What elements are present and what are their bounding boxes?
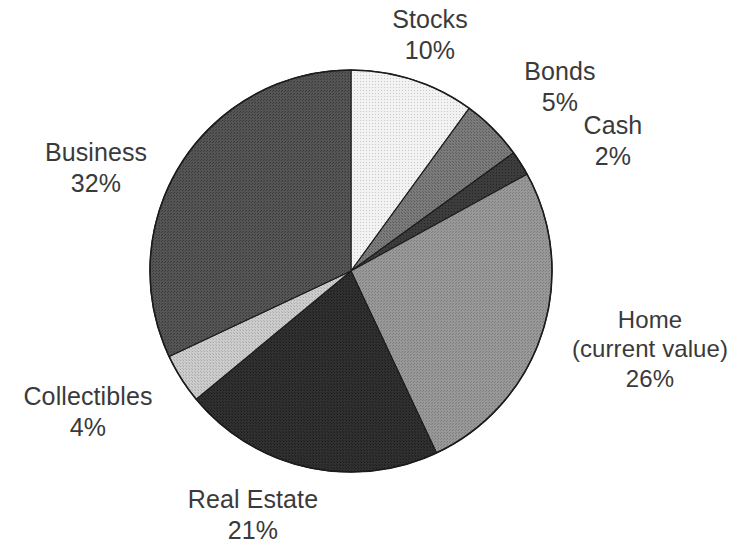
slice-label-real-estate-name: Real Estate (148, 484, 358, 515)
slice-label-home-subtitle: (current value) (566, 334, 734, 363)
slice-label-stocks-name: Stocks (330, 4, 530, 35)
pie-slice-group (150, 70, 552, 472)
slice-label-home-value: 26% (566, 364, 734, 393)
slice-label-cash: Cash 2% (528, 110, 698, 171)
slice-label-business-name: Business (12, 137, 180, 168)
slice-label-cash-name: Cash (528, 110, 698, 141)
slice-label-home: Home (current value) 26% (566, 305, 734, 393)
slice-label-collectibles-name: Collectibles (0, 381, 178, 412)
slice-label-real-estate-value: 21% (148, 515, 358, 545)
slice-label-bonds-name: Bonds (470, 56, 650, 87)
slice-label-business: Business 32% (12, 137, 180, 198)
pie-chart-figure: Stocks 10% Bonds 5% Cash 2% Home (curren… (0, 0, 734, 545)
slice-label-cash-value: 2% (528, 141, 698, 172)
slice-label-home-name: Home (566, 305, 734, 334)
slice-label-real-estate: Real Estate 21% (148, 484, 358, 545)
slice-label-collectibles-value: 4% (0, 412, 178, 443)
slice-label-business-value: 32% (12, 168, 180, 199)
slice-label-bonds: Bonds 5% (470, 56, 650, 117)
slice-label-collectibles: Collectibles 4% (0, 381, 178, 442)
